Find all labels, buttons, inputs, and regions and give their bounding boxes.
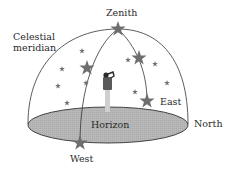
small-star-icon [164,80,170,85]
celestial-sphere-diagram [0,0,233,171]
small-star-icon [59,66,65,71]
small-star-icon [125,57,131,62]
small-star-icon [132,89,138,94]
east-star-icon [139,93,154,107]
observer-figure [103,72,114,112]
east-label: East [160,96,181,107]
celestial-meridian-label: Celestial meridian [13,31,56,53]
west-label: West [70,153,93,164]
small-star-icon [152,61,158,66]
zenith-label: Zenith [106,7,137,18]
north-label: North [194,118,223,129]
horizon-label: Horizon [91,119,129,130]
star-icon [131,50,146,64]
small-star-icon [79,48,85,53]
meridian-arc [118,29,147,101]
small-star-icon [55,83,61,88]
star-icon [79,60,94,74]
small-star-icon [64,100,70,105]
